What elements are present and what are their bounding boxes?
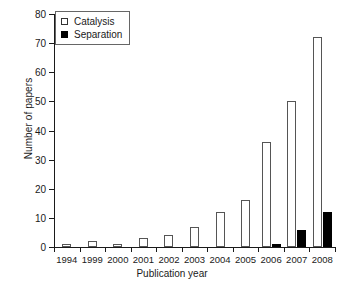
y-tick-label-50: 50	[35, 97, 46, 107]
y-tick-50	[49, 101, 54, 102]
y-tick-label-70: 70	[35, 39, 46, 49]
legend-label-catalysis: Catalysis	[74, 17, 115, 27]
bar-catalysis-2000	[113, 244, 122, 247]
y-tick-70	[49, 43, 54, 44]
bar-separation-2007	[297, 230, 306, 247]
bar-separation-2008	[323, 212, 332, 247]
legend-label-separation: Separation	[74, 30, 122, 40]
x-tick-label-1994: 1994	[56, 255, 77, 265]
x-tick-2004	[207, 247, 208, 252]
x-tick-label-2003: 2003	[184, 255, 205, 265]
x-tick-label-2001: 2001	[133, 255, 154, 265]
bar-catalysis-2008	[313, 37, 322, 247]
bar-catalysis-2007	[287, 101, 296, 247]
y-tick-40	[49, 131, 54, 132]
x-tick-label-2004: 2004	[209, 255, 230, 265]
x-tick-1999	[80, 247, 81, 252]
y-tick-label-60: 60	[35, 68, 46, 78]
y-tick-80	[49, 14, 54, 15]
bar-catalysis-2001	[139, 238, 148, 247]
bar-chart: Number of papers 01020304050607080 19941…	[0, 0, 344, 290]
legend-item-separation: Separation	[61, 28, 122, 41]
y-tick-label-20: 20	[35, 185, 46, 195]
bar-separation-2006	[272, 244, 281, 247]
x-tick-label-2005: 2005	[235, 255, 256, 265]
open-square-icon	[61, 18, 68, 25]
x-axis-line	[54, 247, 335, 248]
bar-catalysis-2002	[164, 235, 173, 247]
x-tick-end	[335, 247, 336, 252]
bar-catalysis-2005	[241, 200, 250, 247]
x-tick-2006	[258, 247, 259, 252]
x-tick-2003	[182, 247, 183, 252]
y-axis-title: Number of papers	[23, 44, 34, 194]
x-tick-2008	[309, 247, 310, 252]
x-tick-1994	[54, 247, 55, 252]
x-tick-label-2000: 2000	[107, 255, 128, 265]
y-axis-line	[54, 14, 55, 247]
plot-area: 01020304050607080 1994199920002001200220…	[54, 14, 335, 247]
x-tick-label-1999: 1999	[82, 255, 103, 265]
bar-catalysis-2003	[190, 227, 199, 247]
chart-legend: Catalysis Separation	[55, 11, 130, 45]
x-tick-label-2002: 2002	[158, 255, 179, 265]
y-tick-20	[49, 189, 54, 190]
bar-catalysis-1994	[62, 244, 71, 247]
x-tick-2001	[131, 247, 132, 252]
y-tick-label-40: 40	[35, 127, 46, 137]
y-tick-30	[49, 160, 54, 161]
x-tick-2000	[105, 247, 106, 252]
y-tick-label-30: 30	[35, 156, 46, 166]
legend-item-catalysis: Catalysis	[61, 15, 122, 28]
x-tick-2007	[284, 247, 285, 252]
x-tick-2002	[156, 247, 157, 252]
y-tick-label-10: 10	[35, 214, 46, 224]
bar-catalysis-2004	[216, 212, 225, 247]
filled-square-icon	[61, 31, 68, 38]
x-tick-label-2007: 2007	[286, 255, 307, 265]
x-tick-label-2008: 2008	[312, 255, 333, 265]
y-tick-10	[49, 218, 54, 219]
x-tick-label-2006: 2006	[261, 255, 282, 265]
y-tick-label-80: 80	[35, 10, 46, 20]
bar-catalysis-2006	[262, 142, 271, 247]
y-tick-label-0: 0	[40, 243, 46, 253]
x-tick-2005	[233, 247, 234, 252]
bar-catalysis-1999	[88, 241, 97, 247]
x-axis-title: Publication year	[0, 268, 344, 279]
y-tick-60	[49, 72, 54, 73]
